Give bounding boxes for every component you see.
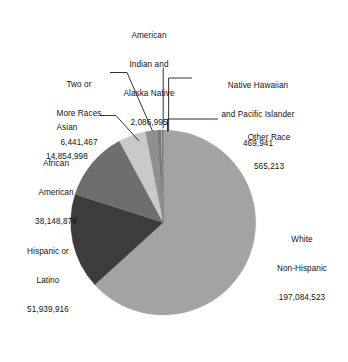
label-value: 565,213 [221, 162, 317, 172]
pie-chart: American Indian and Alaska Native 2,086,… [0, 0, 348, 362]
label-value: 38,148,876 [6, 217, 106, 227]
slice-label-hispanic-or-latino: Hispanic or Latino 51,939,916 [2, 228, 94, 334]
label-line-1: Two or [36, 80, 122, 90]
label-line-2: American [6, 188, 106, 198]
label-value: 197,084,523 [258, 293, 346, 303]
slice-label-other-race: Other Race 565,213 [221, 114, 317, 191]
label-line-1: White [258, 235, 346, 245]
label-line-1: Hispanic or [2, 247, 94, 257]
label-value: 51,939,916 [2, 305, 94, 315]
label-line-2: Non-Hispanic [258, 264, 346, 274]
label-line-1: Native Hawaiian [196, 81, 320, 91]
slice-label-white-non-hispanic: White Non-Hispanic 197,084,523 [258, 216, 346, 322]
label-line-1: African [6, 159, 106, 169]
label-line-1: Other Race [221, 133, 317, 143]
label-line-1: American [97, 31, 201, 41]
label-line-1: Asian [18, 123, 116, 133]
label-line-2: Latino [2, 276, 94, 286]
